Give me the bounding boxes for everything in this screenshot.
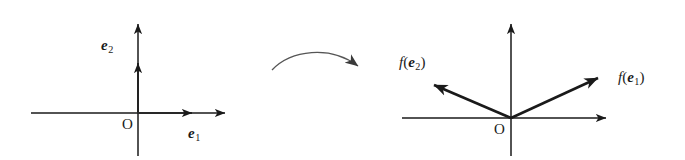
image-vector-f-e2 <box>434 85 511 118</box>
figure-canvas <box>0 0 685 160</box>
origin-label-codomain: O <box>494 122 505 137</box>
label-e2-symbol: e <box>101 37 108 53</box>
label-f-e1-close-paren: ) <box>639 69 644 85</box>
mapping-arrow-group <box>272 52 358 70</box>
image-vector-f-e1 <box>511 78 598 118</box>
label-e1-subscript: 1 <box>195 132 200 143</box>
label-f-e2: f(e2) <box>399 55 425 72</box>
label-e2-subscript: 2 <box>108 44 113 55</box>
label-e2: e2 <box>101 38 113 55</box>
mapping-arrow-curve <box>272 52 358 70</box>
label-f-e1-symbol: e <box>627 69 634 85</box>
origin-label-domain: O <box>122 117 133 132</box>
label-f-e2-close-paren: ) <box>420 54 425 70</box>
label-e1-symbol: e <box>188 125 195 141</box>
label-e1: e1 <box>188 126 200 143</box>
label-f-e1: f(e1) <box>618 70 644 87</box>
linear-transformation-figure: e2 e1 O f(e2) f(e1) O <box>0 0 685 160</box>
label-f-e2-symbol: e <box>408 54 415 70</box>
